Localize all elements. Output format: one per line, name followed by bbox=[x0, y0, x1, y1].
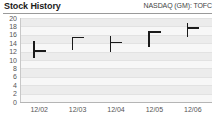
y-axis-tick-label: 18 bbox=[2, 23, 17, 30]
ticker-symbol-label: NASDAQ (GM): TOFC bbox=[144, 2, 212, 9]
chart-gridline bbox=[20, 35, 212, 36]
ohlc-close-tick bbox=[35, 50, 46, 51]
chart-gridline bbox=[20, 68, 212, 69]
page-title: Stock History bbox=[4, 1, 61, 11]
chart-gridline bbox=[20, 26, 212, 27]
ohlc-close-tick bbox=[73, 37, 84, 38]
ohlc-close-tick bbox=[111, 42, 122, 43]
ohlc-bar bbox=[148, 31, 149, 47]
chart-gridline bbox=[20, 18, 212, 19]
y-axis-tick-label: 16 bbox=[2, 31, 17, 38]
y-axis-tick-label: 4 bbox=[2, 82, 17, 89]
chart-band bbox=[20, 68, 212, 76]
widget-header: Stock History NASDAQ (GM): TOFC bbox=[0, 0, 215, 15]
y-axis-tick-label: 20 bbox=[2, 15, 17, 22]
y-axis-line bbox=[20, 18, 21, 103]
y-axis-tick-label: 12 bbox=[2, 48, 17, 55]
x-axis-tick-label: 12/06 bbox=[177, 106, 209, 113]
x-axis-tick-label: 12/03 bbox=[62, 106, 94, 113]
y-axis-tick-label: 2 bbox=[2, 90, 17, 97]
y-axis-tick-label: 6 bbox=[2, 73, 17, 80]
chart-gridline bbox=[20, 52, 212, 53]
chart-gridline bbox=[20, 85, 212, 86]
y-axis-tick-label: 8 bbox=[2, 65, 17, 72]
ohlc-close-tick bbox=[188, 27, 199, 28]
y-axis-tick-label: 10 bbox=[2, 57, 17, 64]
y-axis-tick-label: 0 bbox=[2, 99, 17, 106]
chart-band bbox=[20, 85, 212, 93]
x-axis-tick-label: 12/04 bbox=[100, 106, 132, 113]
chart-plot-area bbox=[20, 18, 212, 102]
y-axis-tick-label: 14 bbox=[2, 40, 17, 47]
chart-gridline bbox=[20, 77, 212, 78]
ohlc-close-tick bbox=[150, 31, 161, 32]
x-axis-tick-label: 12/05 bbox=[138, 106, 170, 113]
chart-gridline bbox=[20, 94, 212, 95]
header-divider bbox=[3, 13, 212, 14]
chart-gridline bbox=[20, 60, 212, 61]
ohlc-bar bbox=[187, 23, 188, 37]
x-axis-line bbox=[20, 102, 212, 103]
ohlc-bar bbox=[72, 37, 73, 50]
stock-history-widget: Stock History NASDAQ (GM): TOFC 20181614… bbox=[0, 0, 215, 121]
ohlc-bar bbox=[110, 36, 111, 53]
x-axis-tick-label: 12/02 bbox=[23, 106, 55, 113]
